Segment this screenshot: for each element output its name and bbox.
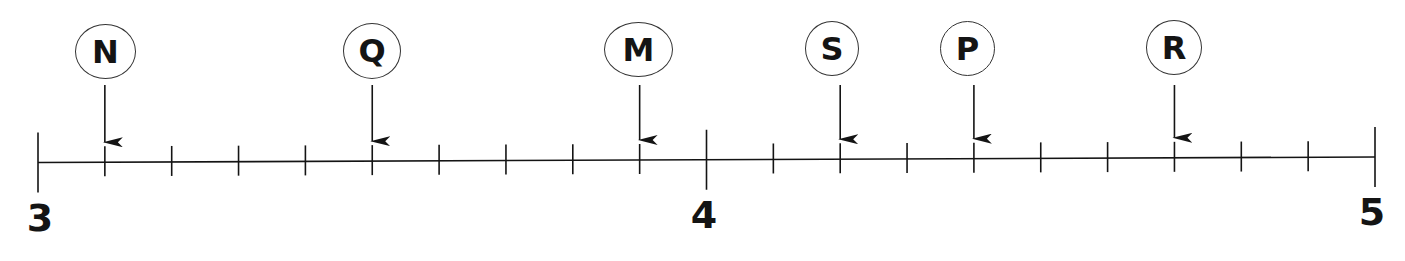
point-label-q: Q	[343, 23, 401, 79]
point-label-p: P	[940, 21, 995, 76]
point-label-s: S	[805, 21, 859, 76]
number-line-diagram: 3 4 5 N Q M S P R	[0, 0, 1405, 261]
point-label-r: R	[1146, 20, 1202, 75]
tick-label-3: 3	[27, 199, 53, 237]
tick-label-5: 5	[1359, 193, 1385, 231]
point-label-m: M	[604, 22, 673, 77]
tick-label-4: 4	[691, 196, 717, 234]
point-label-n: N	[75, 24, 136, 79]
